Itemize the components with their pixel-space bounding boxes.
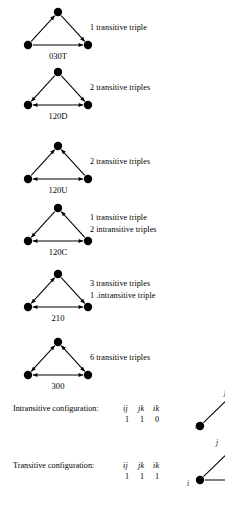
side-figure-transitive: ji: [186, 440, 225, 502]
node-left: [24, 101, 32, 109]
node-right: [84, 303, 92, 311]
edge-top-right: [61, 16, 85, 42]
triad-300-caption: 6 transitive triples: [90, 352, 150, 364]
arrowhead: [33, 305, 38, 309]
edge-left-right: [33, 103, 83, 107]
node-top: [54, 204, 62, 212]
node-right: [84, 175, 92, 183]
arrowhead: [33, 177, 38, 181]
node-top: [54, 338, 62, 346]
triad-120D-caption: 2 transitive triples: [90, 82, 150, 94]
edge-left-top: [31, 76, 55, 102]
triad-120D-diagram: 120D: [18, 64, 98, 122]
node-right: [84, 237, 92, 245]
arrowhead: [79, 177, 84, 181]
triad-120D-code-label: 120D: [48, 111, 67, 121]
node-top: [54, 142, 62, 150]
arrowhead: [79, 103, 84, 107]
triad-030T-diagram: 030T: [18, 4, 98, 62]
triad-030T-caption: 1 transitive triple: [90, 22, 147, 34]
intransitive-configuration-header-cell: ik: [153, 404, 168, 413]
transitive-configuration-header-cell: jk: [138, 461, 153, 470]
transitive-configuration-values: 111: [125, 472, 170, 481]
edge-top-right: [61, 150, 85, 176]
triad-210-caption-line: 1 .intransitive triple: [90, 290, 155, 302]
triad-210-caption-line: 3 transitive triples: [90, 278, 155, 290]
triad-210-code-label: 210: [52, 313, 65, 323]
triad-300-caption-line: 6 transitive triples: [90, 352, 150, 364]
triad-120C-code-label: 120C: [49, 247, 68, 257]
figure-canvas: 030T1 transitive triple120D2 transitive …: [0, 0, 225, 510]
edge-top-right: [61, 346, 85, 372]
edge-i-j: [203, 451, 225, 476]
edge-left-right: [33, 43, 83, 47]
side-figure-intransitive: ji: [186, 386, 225, 448]
node-i: [196, 476, 204, 484]
node-left: [24, 175, 32, 183]
edge-left-right: [33, 305, 83, 309]
edge-left-right: [33, 373, 83, 377]
edge-left-top: [31, 16, 55, 42]
intransitive-configuration-label: Intransitive configuration:: [13, 404, 99, 413]
transitive-configuration-headers: ijjkik: [123, 461, 168, 470]
edge-left-top: [31, 346, 55, 372]
intransitive-configuration-header-cell: jk: [138, 404, 153, 413]
node-top: [54, 270, 62, 278]
intransitive-configuration-header-cell: ij: [123, 404, 138, 413]
arrowhead: [33, 103, 38, 107]
arrowhead: [79, 239, 84, 243]
node-left: [24, 41, 32, 49]
triad-120U-caption: 2 transitive triples: [90, 156, 150, 168]
triad-120C-caption: 1 transitive triple2 intransitive triple…: [90, 212, 157, 235]
node-left: [24, 371, 32, 379]
node-right: [84, 371, 92, 379]
intransitive-configuration-headers: ijjkik: [123, 404, 168, 413]
arrowhead: [33, 239, 38, 243]
arrowhead: [79, 43, 84, 47]
edge-top-right: [61, 212, 85, 238]
transitive-configuration-header-cell: ij: [123, 461, 138, 470]
intransitive-configuration-value-cell: 0: [155, 415, 170, 424]
transitive-configuration-header-cell: ik: [153, 461, 168, 470]
triad-120C-caption-line: 2 intransitive triples: [90, 224, 157, 236]
arrowhead: [79, 373, 84, 377]
edge-i-j: [203, 397, 225, 422]
node-top: [54, 8, 62, 16]
edge-left-top: [31, 150, 55, 176]
side-figure-intransitive-node-label: j: [224, 388, 225, 397]
node-right: [84, 101, 92, 109]
triad-120U-diagram: 120U: [18, 138, 98, 196]
side-figure-transitive-node-label: j: [216, 438, 218, 447]
arrowhead: [79, 305, 84, 309]
triad-210-caption: 3 transitive triples1 .intransitive trip…: [90, 278, 155, 301]
triad-300-code-label: 300: [52, 381, 65, 391]
edge-i-k: [205, 478, 225, 482]
node-top: [54, 68, 62, 76]
triad-120C-caption-line: 1 transitive triple: [90, 212, 157, 224]
intransitive-configuration-value-cell: 1: [125, 415, 140, 424]
side-figure-transitive-node-label: i: [187, 479, 189, 488]
edge-left-top: [31, 212, 55, 238]
triad-030T-code-label: 030T: [49, 51, 68, 61]
triad-030T-caption-line: 1 transitive triple: [90, 22, 147, 34]
triad-210-diagram: 210: [18, 266, 98, 324]
node-left: [24, 303, 32, 311]
transitive-configuration-label: Transitive configuration:: [13, 461, 94, 470]
side-figure-intransitive-node-label: i: [195, 422, 197, 431]
triad-120C-diagram: 120C: [18, 200, 98, 258]
transitive-configuration-value-cell: 1: [140, 472, 155, 481]
intransitive-configuration-values: 110: [125, 415, 170, 424]
intransitive-configuration-value-cell: 1: [140, 415, 155, 424]
transitive-configuration-value-cell: 1: [155, 472, 170, 481]
edge-top-right: [61, 76, 85, 102]
arrowhead: [33, 373, 38, 377]
edge-left-right: [33, 177, 83, 181]
node-left: [24, 237, 32, 245]
triad-300-diagram: 300: [18, 334, 98, 392]
transitive-configuration-value-cell: 1: [125, 472, 140, 481]
edge-left-top: [31, 278, 55, 304]
edge-left-right: [33, 239, 83, 243]
triad-120D-caption-line: 2 transitive triples: [90, 82, 150, 94]
edge-top-right: [61, 278, 85, 304]
triad-120U-caption-line: 2 transitive triples: [90, 156, 150, 168]
